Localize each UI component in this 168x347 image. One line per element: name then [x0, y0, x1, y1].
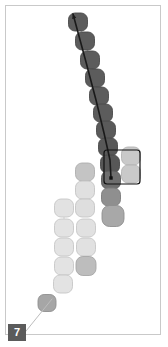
cell-node[interactable]: [90, 87, 109, 105]
cell-node[interactable]: [55, 238, 74, 256]
cell-node[interactable]: [122, 165, 141, 183]
cell-node[interactable]: [76, 163, 95, 181]
cell-node[interactable]: [102, 188, 121, 206]
cell-layer: [38, 13, 141, 312]
track-endpoint-marker: [109, 176, 112, 179]
cell-node[interactable]: [76, 181, 95, 199]
cell-node[interactable]: [94, 104, 113, 122]
cell-node[interactable]: [69, 13, 88, 31]
cell-node[interactable]: [102, 206, 124, 227]
cell-diagram-canvas: [0, 0, 168, 347]
figure-panel: 7: [0, 0, 168, 347]
cell-node[interactable]: [77, 238, 96, 256]
cell-node[interactable]: [38, 295, 56, 312]
cell-node[interactable]: [55, 199, 74, 217]
cell-node[interactable]: [55, 257, 74, 275]
lower-connector-line: [22, 299, 52, 336]
cell-node[interactable]: [76, 199, 95, 217]
cell-node[interactable]: [54, 275, 73, 293]
cell-node[interactable]: [76, 257, 96, 276]
cell-node[interactable]: [55, 219, 74, 237]
cell-node[interactable]: [97, 121, 116, 139]
cell-node[interactable]: [77, 219, 96, 237]
panel-label: 7: [8, 324, 26, 341]
